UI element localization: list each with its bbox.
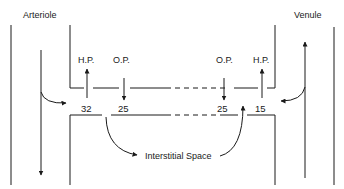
interstitial-space-label: Interstitial Space: [145, 152, 212, 161]
op-arterial-value: 25: [118, 104, 129, 114]
arteriole-to-capillary-arrow: [41, 92, 66, 103]
filtration-arrow: [106, 117, 137, 155]
hp-venous-value: 15: [255, 104, 266, 114]
venule-label: Venule: [294, 11, 322, 20]
hp-arterial-label: H.P.: [78, 56, 94, 65]
capillary-to-venule-arrow: [281, 87, 305, 101]
op-venous-label: O.P.: [216, 56, 233, 65]
op-venous-value: 25: [217, 104, 228, 114]
hp-arterial-value: 32: [81, 104, 92, 114]
arteriole-label: Arteriole: [23, 11, 57, 20]
hp-venous-label: H.P.: [253, 56, 269, 65]
op-arterial-label: O.P.: [113, 56, 130, 65]
